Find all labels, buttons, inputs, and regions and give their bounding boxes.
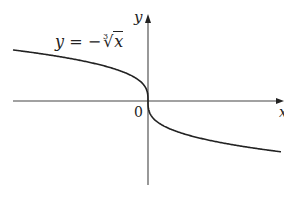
cube-root-graph (0, 0, 284, 206)
y-axis-label: y (134, 8, 142, 26)
x-axis-label: x (279, 104, 284, 120)
equation-radicand: x (113, 31, 123, 51)
origin-label: 0 (134, 104, 143, 120)
equation-label: y = −3√x (55, 32, 123, 51)
equation-equals-minus: = − (64, 32, 101, 51)
equation-y: y (55, 32, 64, 51)
equation-root-index: 3 (103, 32, 108, 41)
y-axis-arrow-icon (145, 14, 151, 23)
